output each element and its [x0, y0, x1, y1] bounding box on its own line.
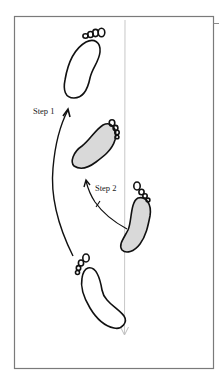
step1-arrow	[52, 109, 73, 256]
step2-label: Step 2	[95, 183, 117, 193]
centerline-arrow	[121, 20, 129, 335]
step1-label: Step 1	[33, 106, 55, 116]
footprint-top-icon	[64, 28, 105, 98]
diagram-frame	[15, 17, 220, 369]
footprint-middle-icon	[72, 120, 119, 168]
footprint-bottom-icon	[76, 254, 126, 328]
